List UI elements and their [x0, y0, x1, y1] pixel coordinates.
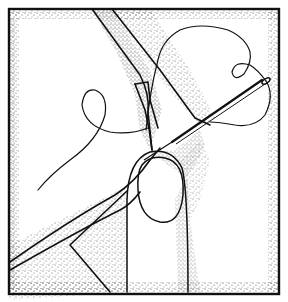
- needle: [144, 77, 271, 160]
- fabric-shading: [9, 9, 215, 300]
- needle-threading-illustration: [0, 0, 288, 302]
